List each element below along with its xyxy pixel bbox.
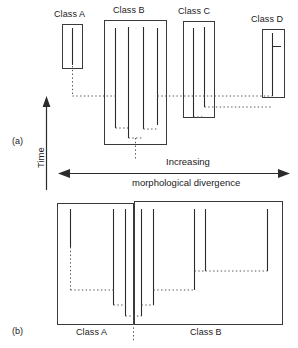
panel-a-graphics: [63, 21, 285, 161]
class-label-a-classC: Class C: [178, 7, 210, 16]
divergence-label-line1: Increasing: [166, 157, 210, 167]
class-label-a-classA: Class A: [54, 10, 85, 19]
class-label-a-classB: Class B: [113, 6, 145, 15]
figure-root: Class A Class B Class C Class D (a) (b) …: [0, 0, 298, 348]
class-box-a-classD: [263, 30, 285, 98]
divergence-label-line2: morphological divergence: [132, 178, 240, 188]
class-label-a-classD: Class D: [251, 15, 283, 24]
panel-label-a: (a): [12, 137, 23, 146]
class-box-a-classC: [184, 22, 215, 118]
class-label-b-classB: Class B: [190, 328, 222, 337]
class-label-b-classA: Class A: [76, 328, 107, 337]
lineage-bars-b: [71, 209, 268, 316]
lineage-bars-a: [73, 27, 273, 138]
ancestry-connectors-a: [73, 66, 273, 160]
diagram-canvas: [0, 0, 298, 348]
time-axis-arrowhead: [43, 96, 51, 107]
panel-label-b: (b): [12, 327, 23, 336]
divergence-arrowhead-left: [58, 169, 70, 178]
class-box-b-classA: [58, 204, 134, 325]
class-box-b-classB: [135, 202, 283, 325]
divergence-arrowhead-right: [278, 169, 290, 178]
panel-b-graphics: [58, 202, 283, 342]
time-axis-label: Time: [36, 147, 46, 168]
